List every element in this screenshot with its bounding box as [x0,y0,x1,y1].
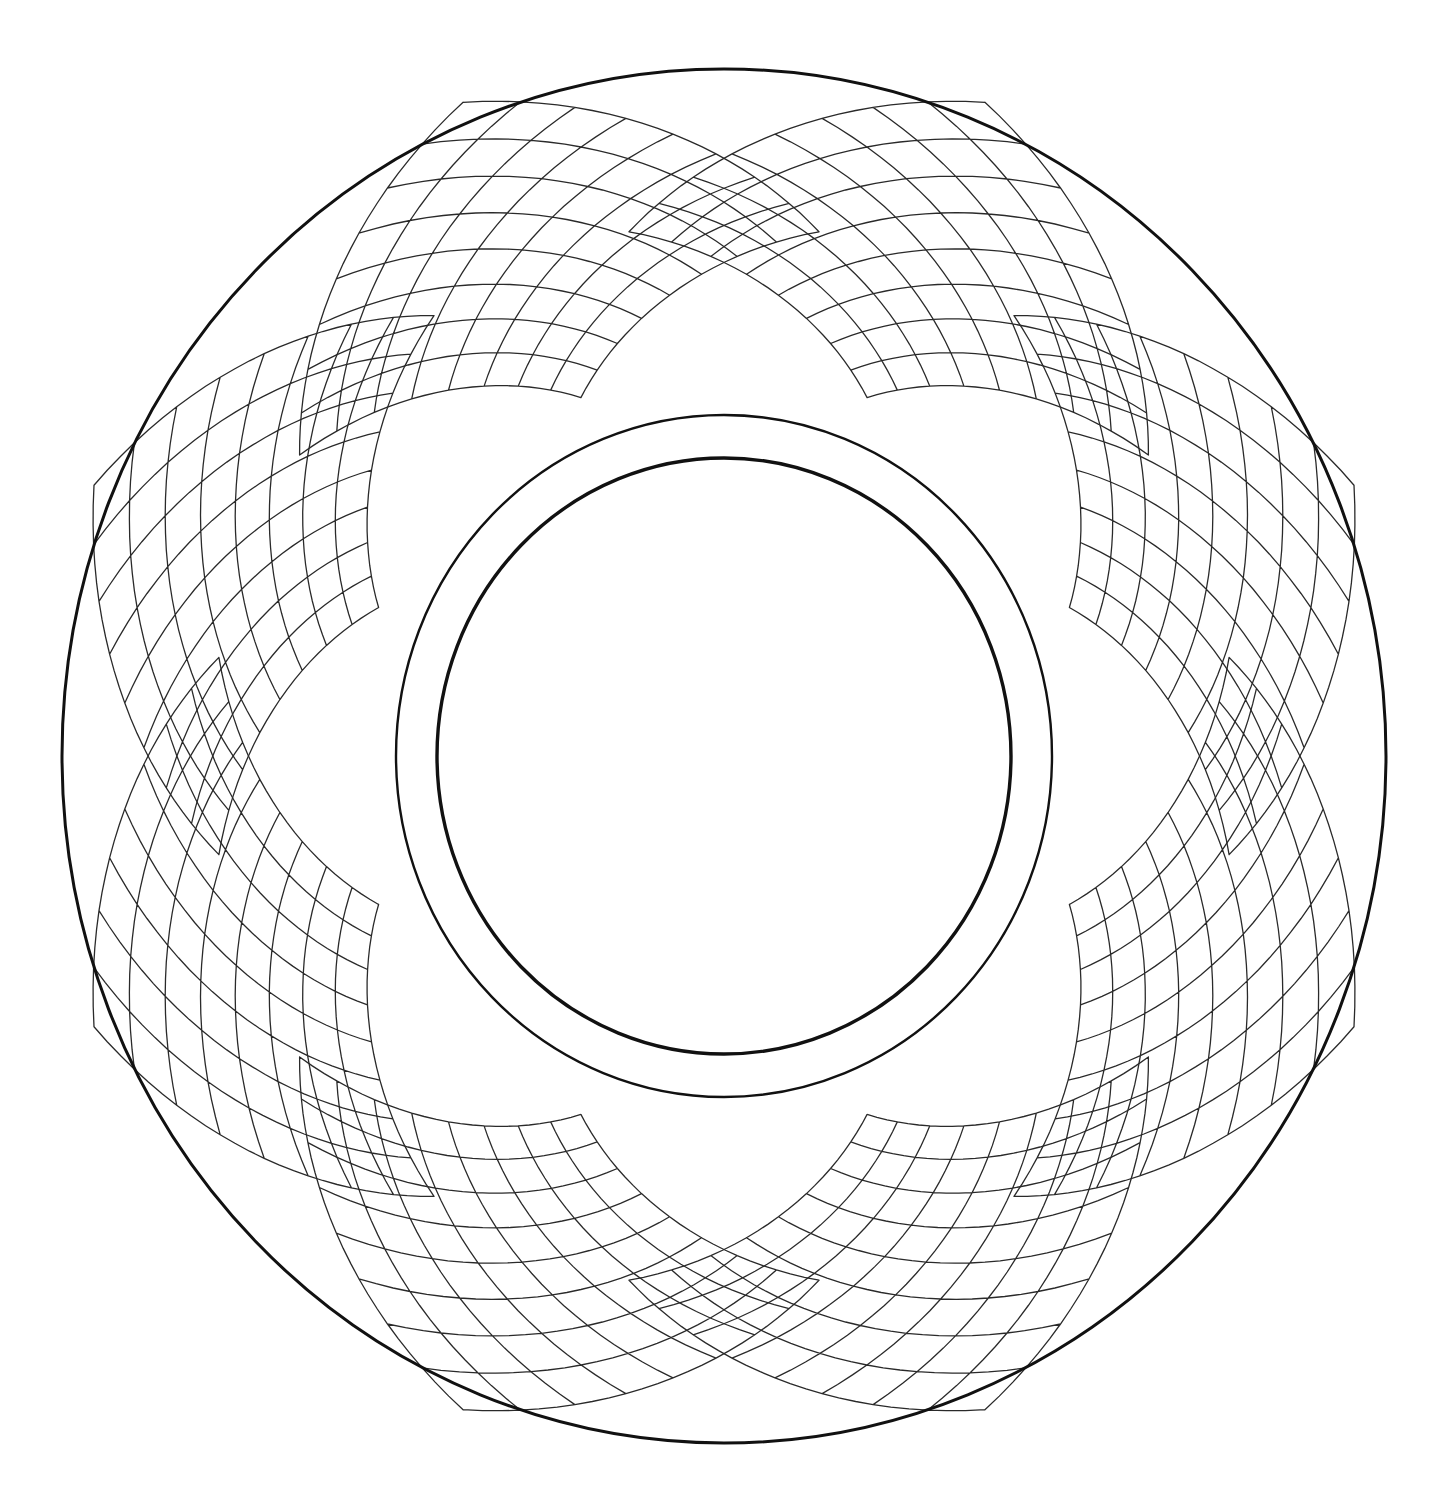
petal-grid-lines [629,1057,1148,1411]
outer-circle [62,69,1386,1443]
ring-inner-line [437,458,1011,1054]
circle-outlines [62,69,1386,1443]
lattice-petal-8 [93,316,434,855]
lattice-petal-4 [1014,657,1355,1196]
mandala-drawing [0,0,1453,1497]
lattice-petal-5 [629,1057,1148,1411]
curved-grid-lattice [93,101,1355,1410]
petal-grid-lines [629,101,1148,455]
lattice-petal-7 [93,657,434,1196]
petal-grid-lines [300,101,819,455]
petal-grid-lines [1014,316,1355,855]
lattice-petal-6 [300,1057,819,1411]
ring-outer-line [396,415,1052,1097]
lattice-petal-2 [629,101,1148,455]
petal-grid-lines [93,657,434,1196]
petal-grid-lines [93,316,434,855]
mandala-canvas [0,0,1453,1497]
petal-grid-lines [1014,657,1355,1196]
lattice-petal-3 [1014,316,1355,855]
lattice-petal-1 [300,101,819,455]
petal-grid-lines [300,1057,819,1411]
